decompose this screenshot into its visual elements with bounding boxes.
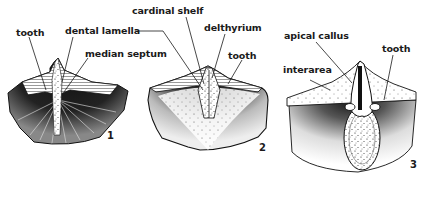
- label-tooth-1: tooth: [16, 28, 44, 38]
- label-apical-callus: apical callus: [284, 31, 349, 41]
- specimen-2-shell: [148, 66, 268, 150]
- label-median-septum: median septum: [85, 49, 167, 59]
- label-delthyrium: delthyrium: [204, 23, 262, 33]
- label-interarea: interarea: [283, 65, 332, 75]
- specimen-number-2: 2: [259, 143, 266, 153]
- specimen-number-3: 3: [410, 160, 417, 170]
- label-dental-lamella: dental lamella: [65, 26, 140, 36]
- figure: tooth dental lamella median septum 1 car…: [0, 0, 426, 202]
- label-tooth-3: tooth: [382, 44, 410, 54]
- specimen-3-shell: [287, 61, 416, 172]
- label-cardinal-shelf: cardinal shelf: [132, 6, 203, 16]
- label-tooth-2: tooth: [228, 51, 256, 61]
- specimen-number-1: 1: [107, 131, 114, 141]
